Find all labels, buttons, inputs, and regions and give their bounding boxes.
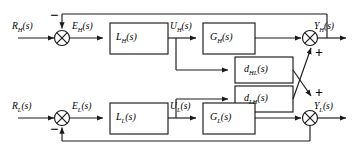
lower-plant-label: GL(s) bbox=[210, 112, 231, 125]
lower-reference-label: RL(s) bbox=[12, 102, 31, 113]
lower-control-label: UL(s) bbox=[170, 102, 191, 113]
lower-feedback-minus-sign: − bbox=[50, 122, 59, 137]
lower-error-label: EL(s) bbox=[72, 102, 91, 113]
upper-error-label: EH(s) bbox=[72, 22, 93, 33]
lower-sum-plus-sign: + bbox=[315, 86, 323, 100]
upper-output-label: YH(s) bbox=[314, 22, 334, 33]
upper-control-label: UH(s) bbox=[170, 22, 192, 33]
upper-feedback-minus-sign: − bbox=[50, 8, 59, 23]
lower-output-label: YL(s) bbox=[314, 102, 333, 113]
upper-sum-plus-sign: + bbox=[315, 46, 323, 60]
coupling-hl-label: dHL(s) bbox=[244, 64, 268, 77]
upper-reference-label: RH(s) bbox=[12, 22, 33, 33]
lower-controller-label: LL(s) bbox=[116, 112, 136, 125]
block-diagram-canvas: RH(s) EH(s) LH(s) UH(s) GH(s) YH(s) − + … bbox=[0, 0, 353, 152]
coupling-lh-label: dLH(s) bbox=[244, 93, 268, 106]
upper-plant-label: GH(s) bbox=[210, 32, 233, 45]
upper-controller-label: LH(s) bbox=[116, 32, 137, 45]
